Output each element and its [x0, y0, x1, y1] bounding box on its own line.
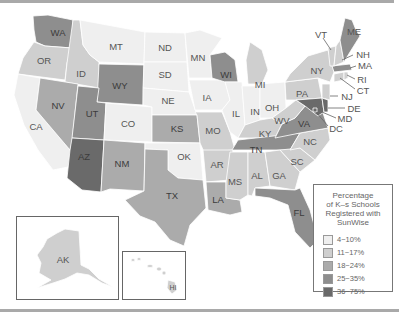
island-lanai[interactable] — [162, 271, 166, 275]
state-AZ[interactable] — [67, 138, 104, 192]
legend-swatch — [323, 248, 333, 258]
label-KY: KY — [259, 128, 272, 139]
label-HI: HI — [170, 284, 177, 291]
label-OR: OR — [37, 55, 51, 66]
label-ID: ID — [76, 68, 86, 79]
label-MS: MS — [228, 176, 242, 187]
island-oahu[interactable] — [137, 258, 141, 261]
label-SD: SD — [158, 69, 171, 80]
label-OK: OK — [177, 151, 191, 162]
legend-item: 36~75% — [323, 285, 392, 298]
label-VT: VT — [315, 29, 327, 40]
label-CT: CT — [357, 85, 370, 96]
state-CT[interactable] — [334, 72, 344, 82]
hawaii-inset: HI — [122, 251, 186, 300]
alaska-inset: AK — [16, 216, 119, 300]
legend: Percentage of K–s Schools Registered wit… — [313, 184, 393, 292]
label-NC: NC — [303, 136, 317, 147]
legend-title: Percentage of K–s Schools Registered wit… — [314, 191, 392, 227]
label-DC: DC — [329, 123, 343, 134]
label-GA: GA — [272, 170, 286, 181]
label-RI: RI — [357, 74, 367, 85]
label-ND: ND — [158, 42, 172, 53]
island-kauai[interactable] — [131, 259, 135, 262]
label-NY: NY — [310, 65, 324, 76]
label-IL: IL — [232, 108, 240, 119]
label-NM: NM — [115, 158, 130, 169]
label-CO: CO — [121, 118, 135, 129]
label-PA: PA — [296, 88, 309, 99]
label-WY: WY — [112, 80, 128, 91]
label-NJ: NJ — [341, 91, 353, 102]
label-UT: UT — [86, 108, 99, 119]
label-ME: ME — [347, 26, 361, 37]
label-NH: NH — [356, 49, 370, 60]
label-WI: WI — [220, 69, 232, 80]
legend-item: 4~10% — [323, 233, 392, 246]
label-MN: MN — [191, 52, 206, 63]
label-MT: MT — [109, 41, 123, 52]
label-FL: FL — [293, 207, 304, 218]
label-AL: AL — [251, 170, 263, 181]
label-SC: SC — [290, 156, 303, 167]
state-DC[interactable] — [313, 108, 317, 112]
island-maui[interactable] — [157, 267, 162, 271]
label-MO: MO — [205, 125, 220, 136]
label-IN: IN — [250, 106, 260, 117]
label-WA: WA — [51, 27, 67, 38]
label-AK: AK — [57, 254, 70, 265]
label-AZ: AZ — [78, 151, 90, 162]
state-FL[interactable] — [255, 188, 318, 248]
state-AK[interactable] — [37, 229, 113, 288]
state-NJ[interactable] — [322, 84, 330, 100]
hawaii-map: HI — [123, 252, 185, 299]
state-RI[interactable] — [344, 72, 348, 80]
label-KS: KS — [171, 123, 184, 134]
label-WV: WV — [274, 115, 290, 126]
label-LA: LA — [212, 194, 224, 205]
legend-swatch — [323, 274, 333, 284]
label-NV: NV — [51, 100, 65, 111]
label-OH: OH — [265, 102, 279, 113]
label-CA: CA — [29, 121, 43, 132]
legend-item: 11~17% — [323, 246, 392, 259]
legend-item: 18~24% — [323, 259, 392, 272]
alaska-map: AK — [17, 217, 118, 299]
legend-swatch — [323, 261, 333, 271]
label-VA: VA — [298, 118, 311, 129]
label-MA: MA — [358, 60, 373, 71]
label-MI: MI — [255, 79, 266, 90]
legend-swatch — [323, 287, 333, 297]
legend-swatch — [323, 235, 333, 245]
label-IA: IA — [203, 92, 213, 103]
label-TN: TN — [250, 144, 263, 155]
legend-item: 25~35% — [323, 272, 392, 285]
island-molokai[interactable] — [147, 265, 153, 268]
label-TX: TX — [166, 190, 179, 201]
label-AR: AR — [210, 159, 223, 170]
label-NE: NE — [161, 95, 174, 106]
bottom-rule — [0, 309, 399, 312]
